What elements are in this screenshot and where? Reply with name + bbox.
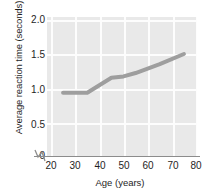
x-axis-title: Age (years) [40,177,200,188]
y-tick-label: 2.0 [19,15,45,25]
x-tick-label: 80 [184,160,207,172]
series-line [47,17,197,156]
x-tick-label: 70 [161,160,185,172]
x-tick-label: 60 [136,160,160,172]
x-tick-label: 50 [112,160,136,172]
x-tick-label: 30 [63,160,87,172]
x-tick-label: 40 [88,160,112,172]
x-axis-line [34,156,200,157]
plot-area [47,17,197,156]
y-tick-label: 0.5 [19,120,45,130]
x-axis-tick-labels: 20 30 40 50 60 70 80 [0,160,207,174]
y-tick-label: 1.0 [19,85,45,95]
y-tick-label: 1.5 [19,50,45,60]
reaction-time-line-chart: Average reaction time (seconds) 2.0 1.5 … [0,0,207,196]
x-tick-label: 20 [39,160,63,172]
